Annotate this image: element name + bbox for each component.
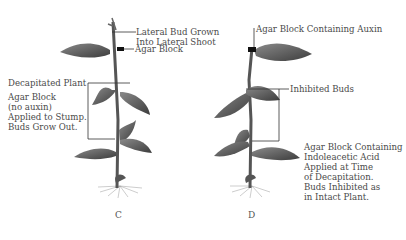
label-d-description: Agar Block Containing Indoleacetic Acid … [304, 142, 403, 202]
label-line: Agar Block Containing [304, 142, 403, 152]
label-agar-auxin: Agar Block Containing Auxin [256, 24, 382, 34]
leaf [252, 147, 300, 160]
label-c-description: Agar Block (no auxin) Applied to Stump. … [8, 92, 87, 132]
label-line: Indoleacetic Acid [304, 152, 403, 162]
label-line: of Decapitation. [304, 172, 403, 182]
leaf [92, 88, 116, 105]
label-inhibited-buds: Inhibited Buds [290, 84, 354, 94]
label-line: Agar Block [8, 92, 87, 102]
label-line: Applied at Time [304, 162, 403, 172]
leaf [120, 139, 152, 153]
label-line: Lateral Bud Grown [136, 27, 219, 37]
label-line: in Intact Plant. [304, 192, 403, 202]
stem-d [249, 48, 252, 188]
leaf [120, 92, 150, 115]
label-line: Applied to Stump. [8, 112, 87, 122]
label-decapitated-plant: Decapitated Plant [8, 78, 86, 88]
leaf [119, 120, 136, 142]
leaf [254, 44, 312, 61]
label-agar-block: Agar Block [135, 44, 183, 54]
panel-letter-c: C [115, 210, 122, 220]
plant-d [214, 28, 312, 198]
agar-block-c [117, 47, 124, 51]
panel-letter-d: D [248, 210, 255, 220]
leaf [214, 142, 250, 157]
leaf [74, 149, 116, 160]
stem-c [113, 22, 118, 188]
label-line: Buds Inhibited as [304, 182, 403, 192]
leaf [60, 43, 110, 57]
leaf [214, 92, 250, 118]
label-line: (no auxin) [8, 102, 87, 112]
label-line: Buds Grow Out. [8, 122, 87, 132]
roots-c [98, 186, 142, 198]
agar-block-d [248, 47, 256, 52]
